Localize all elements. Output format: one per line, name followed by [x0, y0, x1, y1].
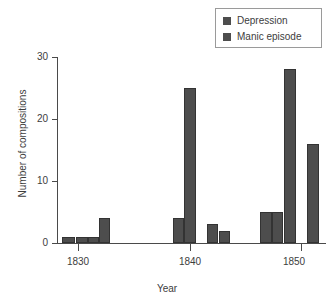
bar	[219, 231, 230, 243]
bar	[173, 218, 184, 243]
bar	[307, 144, 319, 243]
x-tick-label-1850: 1850	[274, 256, 314, 267]
bar	[207, 224, 218, 243]
x-axis-title: Year	[0, 283, 334, 294]
legend-label-depression: Depression	[237, 16, 288, 26]
legend-item-depression: Depression	[223, 13, 316, 28]
y-tick-label-20: 20	[26, 114, 48, 124]
y-axis-title: Number of compositions	[17, 74, 28, 214]
y-tick-label-10: 10	[26, 176, 48, 186]
bar	[260, 212, 272, 243]
y-tick-label-0: 0	[26, 238, 48, 248]
bar	[88, 237, 99, 243]
legend-swatch-depression	[223, 17, 231, 25]
bar	[76, 237, 88, 243]
y-tick-label-30: 30	[26, 52, 48, 62]
x-tick-1840	[190, 244, 191, 251]
chart-legend: Depression Manic episode	[215, 8, 322, 48]
bar	[272, 212, 283, 243]
bar	[99, 218, 110, 243]
x-tick-label-1830: 1830	[58, 256, 98, 267]
legend-item-manic-episode: Manic episode	[223, 29, 316, 44]
x-tick-1850	[301, 244, 302, 251]
bar-chart: Depression Manic episode 30 20 10 0 Numb…	[0, 0, 334, 307]
x-axis-line	[57, 243, 326, 244]
x-tick-label-1840: 1840	[170, 256, 210, 267]
plot-area	[58, 57, 326, 243]
bar	[284, 69, 296, 243]
legend-label-manic-episode: Manic episode	[237, 32, 301, 42]
bar	[184, 88, 196, 243]
x-tick-1830	[78, 244, 79, 251]
bar	[62, 237, 75, 243]
legend-swatch-manic-episode	[223, 33, 231, 41]
